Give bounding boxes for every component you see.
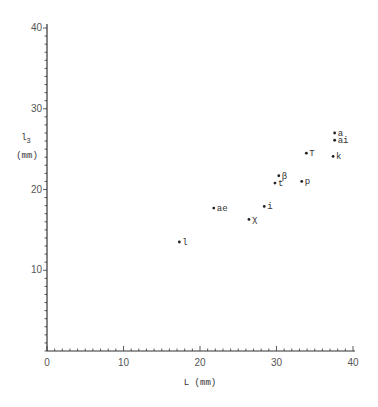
x-tick-label: 40 <box>347 357 359 368</box>
point-label: ai <box>338 136 349 146</box>
point-label: l <box>182 238 187 248</box>
point-marker <box>277 174 280 177</box>
point-label: i <box>267 202 272 212</box>
point-marker <box>332 155 335 158</box>
data-point: T <box>305 149 315 159</box>
x-axis-title: L (mm) <box>184 378 216 388</box>
point-label: T <box>309 149 315 159</box>
point-label: k <box>336 152 341 162</box>
point-marker <box>263 205 266 208</box>
point-marker <box>333 139 336 142</box>
data-point: k <box>332 152 342 162</box>
point-label: ae <box>217 204 228 214</box>
point-label: p <box>305 177 310 187</box>
data-point: l <box>178 238 188 248</box>
y-axis-title-unit: (mm) <box>16 151 38 161</box>
point-marker <box>248 218 251 221</box>
data-point: ai <box>333 136 348 146</box>
y-tick-label: 30 <box>31 103 43 114</box>
data-point: t <box>274 179 284 189</box>
point-label: t <box>278 179 283 189</box>
y-tick-label: 20 <box>31 184 43 195</box>
y-axis-title-main: l3 <box>21 133 31 145</box>
x-tick-label: 10 <box>118 357 130 368</box>
x-tick-label: 30 <box>271 357 283 368</box>
y-tick-label: 40 <box>31 22 43 33</box>
data-points: aaikTpβtiχael <box>178 129 349 248</box>
x-tick-label: 0 <box>44 357 50 368</box>
y-axis-title: l3 (mm) <box>16 133 38 161</box>
data-point: ae <box>212 204 227 214</box>
axes: 01020304010203040 <box>31 22 359 368</box>
scatter-chart: 01020304010203040 aaikTpβtiχael L (mm) l… <box>0 0 378 407</box>
data-point: i <box>263 202 273 212</box>
point-marker <box>333 132 336 135</box>
data-point: χ <box>248 215 258 225</box>
point-marker <box>305 152 308 155</box>
y-tick-label: 10 <box>31 264 43 275</box>
data-point: p <box>300 177 310 187</box>
point-marker <box>274 182 277 185</box>
point-marker <box>212 207 215 210</box>
x-tick-label: 20 <box>194 357 206 368</box>
point-marker <box>178 241 181 244</box>
point-label: χ <box>252 215 258 225</box>
point-marker <box>300 180 303 183</box>
